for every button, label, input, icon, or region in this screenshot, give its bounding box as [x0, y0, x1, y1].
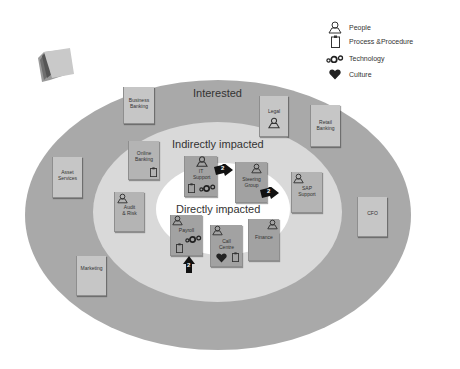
- people-icon: [251, 163, 262, 174]
- people-icon: [328, 21, 342, 34]
- note-label: Retail Banking: [311, 119, 340, 131]
- note-label: Payroll: [171, 227, 202, 233]
- legend-process-label: Process &Procedure: [349, 38, 413, 45]
- people-icon: [268, 117, 280, 129]
- note-label: Business Banking: [124, 97, 154, 109]
- zone-label-directly-impacted: Directly impacted: [176, 203, 260, 215]
- gears-icon: [326, 55, 344, 63]
- clipboard-icon: [176, 243, 183, 253]
- note-finance[interactable]: Finance: [248, 219, 279, 261]
- arrow-payroll: 2: [183, 256, 195, 273]
- note-label: Asset Services: [53, 169, 82, 181]
- note-online-banking[interactable]: Online Banking: [128, 141, 159, 180]
- note-label: Online Banking: [129, 150, 159, 162]
- legend-people-label: People: [349, 24, 371, 31]
- arrow-it-support: 2: [214, 164, 234, 178]
- note-label: Audit & Risk: [115, 204, 144, 216]
- zone-label-indirectly-impacted: Indirectly impacted: [172, 138, 264, 150]
- clipboard-icon: [188, 183, 195, 193]
- legend-technology-label: Technology: [349, 55, 384, 62]
- note-sap-support[interactable]: SAP Support: [291, 172, 322, 213]
- note-label: Finance: [249, 234, 279, 240]
- heart-icon: [216, 253, 227, 263]
- arrow-steering-group: 2: [260, 187, 280, 201]
- clipboard-icon: [150, 167, 157, 177]
- note-label: Legal: [260, 108, 288, 114]
- note-label: IT Support: [185, 168, 217, 180]
- people-icon: [196, 156, 208, 167]
- note-business-banking[interactable]: Business Banking: [123, 87, 154, 124]
- clipboard-icon: [331, 35, 340, 48]
- people-icon: [117, 193, 128, 204]
- gears-icon: [185, 235, 202, 243]
- clipboard-icon: [232, 252, 239, 262]
- heart-icon: [329, 69, 341, 80]
- people-icon: [267, 219, 278, 230]
- note-payroll[interactable]: Payroll: [170, 215, 202, 256]
- note-cfo[interactable]: CFO: [357, 197, 387, 237]
- note-label: Call Centre: [211, 238, 242, 250]
- arrow-number: 2: [187, 262, 190, 268]
- note-marketing[interactable]: Marketing: [76, 256, 106, 296]
- gears-icon: [199, 184, 216, 192]
- people-icon: [293, 173, 304, 184]
- note-retail-banking[interactable]: Retail Banking: [310, 105, 340, 147]
- people-icon: [212, 225, 223, 236]
- note-it-support[interactable]: IT Support: [184, 156, 217, 197]
- note-legal[interactable]: Legal: [259, 96, 288, 137]
- note-audit-risk[interactable]: Audit & Risk: [114, 192, 144, 232]
- people-icon: [172, 215, 183, 226]
- note-label: Marketing: [77, 265, 106, 271]
- note-label: CFO: [358, 210, 387, 216]
- sticky-notes-pad-icon: [30, 44, 78, 86]
- legend-culture-label: Culture: [349, 71, 372, 78]
- note-call-centre[interactable]: Call Centre: [210, 225, 242, 267]
- note-asset-services[interactable]: Asset Services: [52, 157, 82, 198]
- zone-label-interested: Interested: [193, 87, 242, 99]
- note-label: SAP Support: [292, 185, 322, 197]
- arrow-number: 2: [221, 165, 224, 171]
- arrow-number: 2: [267, 188, 270, 194]
